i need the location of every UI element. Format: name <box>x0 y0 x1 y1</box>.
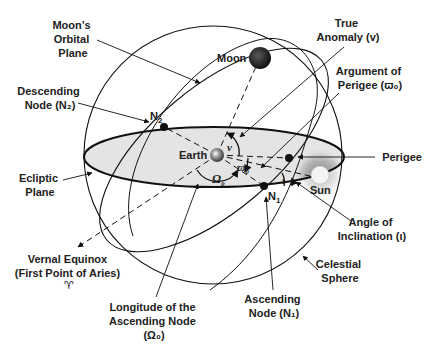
orbital-plane-leader <box>97 40 200 83</box>
orbital-elements-diagram: Moon Earth Sun N2 N1 v ϖ0 Ω0 ι Moon’s Or… <box>0 0 439 359</box>
moons-orbital-plane-label: Moon’s Orbital Plane <box>52 19 93 59</box>
ecliptic-plane-label: Ecliptic Plane <box>19 172 61 198</box>
perigee-label: Perigee <box>382 151 422 163</box>
angle-of-inclination-label: Angle of Inclination (ι) <box>338 216 407 242</box>
perigee-point <box>285 154 293 162</box>
descending-node-label: Descending Node (N₂) <box>17 85 82 111</box>
longitude-ascending-node-label: Longitude of the Ascending Node (Ω₀) <box>109 301 199 341</box>
vernal-equinox-label: Vernal Equinox (First Point of Aries) ♈ <box>15 253 123 291</box>
true-anomaly-symbol: v <box>227 141 232 153</box>
ecliptic-plane-leader <box>63 173 92 180</box>
ascending-node-leader <box>266 197 273 290</box>
celestial-sphere-label: Celestial Sphere <box>316 258 364 284</box>
inclination-symbol: ι <box>282 174 285 186</box>
n1-point <box>260 182 268 190</box>
earth-label: Earth <box>179 149 207 161</box>
n1-label: N1 <box>268 190 281 205</box>
moon <box>249 47 271 69</box>
argument-of-perigee-label: Argument of Perigee (ϖ₀) <box>336 65 404 91</box>
true-anomaly-label: True Anomaly (v) <box>317 17 380 43</box>
ascending-node-label: Ascending Node (N₁) <box>244 293 303 319</box>
longitude-node-leader <box>156 184 198 297</box>
inclination-arc-2 <box>292 178 293 186</box>
moon-label: Moon <box>217 52 247 64</box>
earth <box>210 148 224 162</box>
sun <box>311 166 329 184</box>
